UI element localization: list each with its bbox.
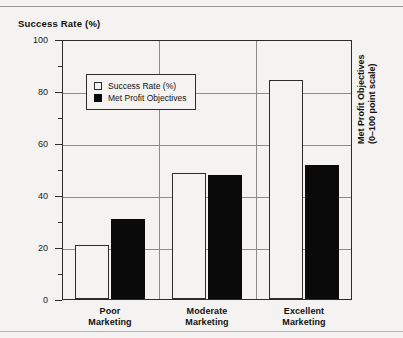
y-tick-major-100	[55, 40, 62, 41]
bar-success-rate-poor[interactable]	[75, 245, 109, 299]
y-tick-label-100: 100	[8, 36, 48, 45]
x-category-label-moderate: Moderate Marketing	[159, 306, 255, 328]
x-category-label-excellent: Excellent Marketing	[256, 306, 352, 328]
bar-success-rate-moderate[interactable]	[172, 173, 206, 299]
gridline-60	[63, 145, 351, 146]
y-axis-left-title: Success Rate (%)	[18, 18, 100, 29]
chart-legend: Success Rate (%) Met Profit Objectives	[86, 74, 196, 110]
y-axis-right-title: Met Profit Objectives (0–100 point scale…	[356, 0, 378, 144]
bar-success-rate-excellent[interactable]	[269, 80, 303, 299]
y-tick-label-0: 0	[8, 296, 48, 305]
y-tick-label-80: 80	[8, 88, 48, 97]
x-category-label-excellent-line2: Marketing	[256, 317, 352, 328]
page-rule-top	[0, 6, 403, 7]
bar-met-profit-excellent[interactable]	[305, 165, 339, 299]
legend-swatch-open-square-icon	[94, 82, 102, 90]
bar-met-profit-poor[interactable]	[111, 219, 145, 299]
page-rule-bottom	[0, 331, 403, 332]
x-category-label-excellent-line1: Excellent	[256, 306, 352, 317]
bar-met-profit-moderate[interactable]	[208, 175, 242, 299]
legend-swatch-filled-square-icon	[94, 94, 102, 102]
legend-item-success-rate[interactable]: Success Rate (%)	[94, 80, 186, 92]
x-category-label-poor: Poor Marketing	[62, 306, 158, 328]
y-tick-major-20	[55, 248, 62, 249]
y-tick-major-80	[55, 92, 62, 93]
legend-label-met-profit-objectives: Met Profit Objectives	[108, 93, 186, 103]
y-tick-label-20: 20	[8, 244, 48, 253]
legend-label-success-rate: Success Rate (%)	[108, 81, 176, 91]
x-category-label-moderate-line2: Marketing	[159, 317, 255, 328]
legend-item-met-profit-objectives[interactable]: Met Profit Objectives	[94, 92, 186, 104]
y-tick-major-60	[55, 144, 62, 145]
x-category-label-poor-line1: Poor	[62, 306, 158, 317]
y-axis-right-title-line1: Met Profit Objectives	[356, 0, 367, 144]
x-category-label-poor-line2: Marketing	[62, 317, 158, 328]
y-tick-label-60: 60	[8, 140, 48, 149]
x-category-label-moderate-line1: Moderate	[159, 306, 255, 317]
y-tick-major-40	[55, 196, 62, 197]
y-tick-label-40: 40	[8, 192, 48, 201]
y-tick-major-0	[55, 300, 62, 301]
category-separator-2	[256, 41, 257, 299]
y-axis-right-title-line2: (0–100 point scale)	[367, 0, 378, 144]
